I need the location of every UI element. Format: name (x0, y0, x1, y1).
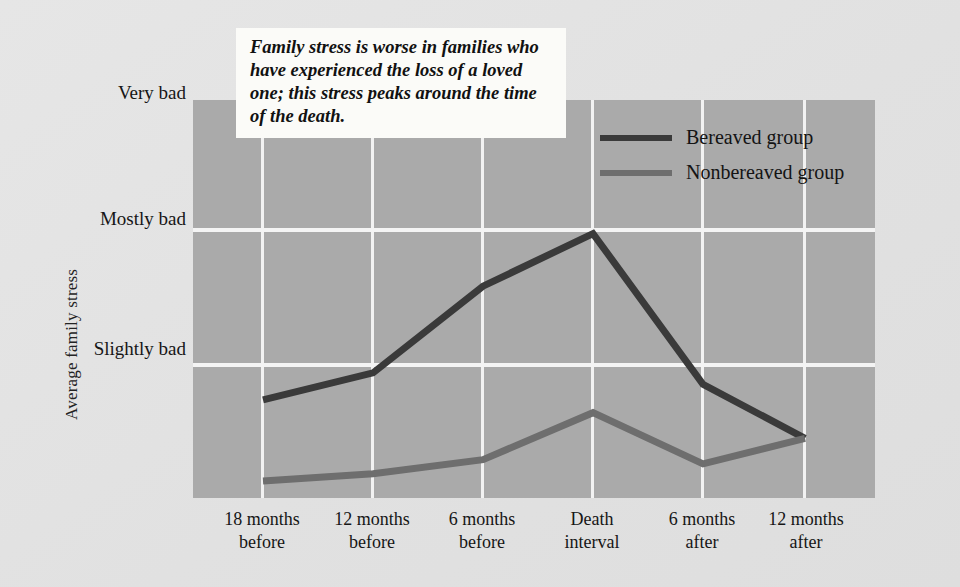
y-axis-tick-labels: Very bad Mostly bad Slightly bad (78, 0, 186, 587)
chart-figure: Average family stress Very bad Mostly ba… (0, 0, 960, 587)
y-tick-mostly-bad-line1: Mostly (100, 208, 154, 229)
line-bereaved-group (263, 234, 805, 439)
y-tick-very-bad: Very bad (86, 82, 186, 103)
y-tick-very-bad-line2: bad (159, 82, 186, 103)
x-axis-tick-labels: 18 months before 12 months before 6 mont… (193, 508, 875, 568)
line-nonbereaved-group (263, 413, 805, 481)
legend-item-bereaved: Bereaved group (600, 120, 890, 155)
legend-swatch-nonbereaved (600, 170, 672, 176)
y-tick-slightly-bad-line1: Slightly (94, 338, 154, 359)
legend-label-bereaved: Bereaved group (686, 126, 813, 149)
legend-swatch-bereaved (600, 135, 672, 141)
legend-label-nonbereaved: Nonbereaved group (686, 161, 844, 184)
x-tick-12-months-after: 12 months after (741, 508, 871, 554)
chart-legend: Bereaved group Nonbereaved group (600, 120, 890, 190)
y-tick-mostly-bad: Mostly bad (86, 208, 186, 229)
y-tick-slightly-bad: Slightly bad (86, 338, 186, 359)
legend-item-nonbereaved: Nonbereaved group (600, 155, 890, 190)
y-tick-mostly-bad-line2: bad (159, 208, 186, 229)
y-tick-very-bad-line1: Very (118, 82, 154, 103)
annotation-callout: Family stress is worse in families who h… (236, 28, 566, 138)
y-tick-slightly-bad-line2: bad (159, 338, 186, 359)
x-tick-12-months-after-line2: after (741, 531, 871, 554)
x-tick-12-months-after-line1: 12 months (741, 508, 871, 531)
